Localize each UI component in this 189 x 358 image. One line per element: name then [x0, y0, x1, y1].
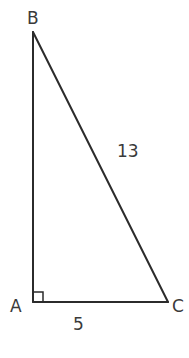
vertex-label-c: C [172, 296, 184, 316]
right-angle-marker-icon [33, 292, 43, 302]
triangle-diagram: B A C 5 13 [0, 0, 189, 358]
side-bc [33, 32, 168, 302]
vertex-label-a: A [10, 296, 22, 316]
vertex-label-b: B [27, 8, 39, 28]
side-label-bc: 13 [117, 141, 139, 161]
side-label-ac: 5 [73, 314, 84, 334]
